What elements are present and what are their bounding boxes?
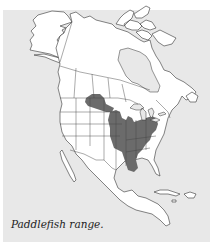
cuba — [154, 190, 180, 196]
map-caption: Paddlefish range. — [11, 218, 104, 230]
jamaica — [172, 200, 176, 202]
hispaniola — [184, 192, 196, 198]
baja-california — [60, 150, 76, 182]
north-america-map — [0, 0, 210, 242]
